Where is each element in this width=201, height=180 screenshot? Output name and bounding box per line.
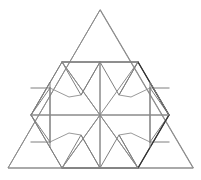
geometric-figure bbox=[0, 0, 201, 180]
figure-canvas bbox=[0, 0, 201, 180]
